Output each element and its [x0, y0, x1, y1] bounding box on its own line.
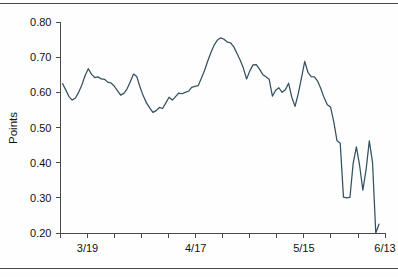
chart-svg: 0.200.300.400.500.600.700.80 3/194/175/1… [0, 6, 398, 264]
y-tick-label: 0.40 [30, 157, 51, 169]
y-tick-label: 0.50 [30, 122, 51, 134]
y-axis-title: Points [7, 112, 19, 144]
y-axis: 0.200.300.400.500.600.700.80 [30, 16, 60, 239]
figure-frame: 0.200.300.400.500.600.700.80 3/194/175/1… [0, 0, 398, 277]
x-tick-label: 4/17 [185, 242, 206, 254]
y-tick-label: 0.30 [30, 192, 51, 204]
y-tick-label: 0.20 [30, 227, 51, 239]
x-tick-group: 3/194/175/156/13 [61, 233, 396, 254]
y-tick-group: 0.200.300.400.500.600.700.80 [30, 16, 60, 239]
line-chart: 0.200.300.400.500.600.700.80 3/194/175/1… [0, 6, 398, 264]
x-axis: 3/194/175/156/13 [61, 233, 396, 254]
bottom-rule [0, 268, 398, 269]
x-tick-label: 6/13 [374, 242, 395, 254]
x-tick-label: 5/15 [293, 242, 314, 254]
top-rule [0, 3, 398, 4]
y-tick-label: 0.80 [30, 16, 51, 28]
data-series-line [63, 38, 380, 233]
y-tick-label: 0.60 [30, 86, 51, 98]
y-tick-label: 0.70 [30, 51, 51, 63]
x-tick-label: 3/19 [77, 242, 98, 254]
